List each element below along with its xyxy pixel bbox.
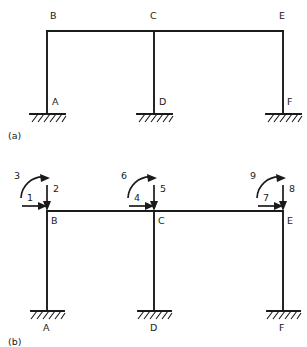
panel-b-support-label-a: A — [43, 322, 50, 333]
dof-group-joint-b: 1 2 3 — [14, 170, 59, 211]
panel-b-joint-label-c: C — [158, 215, 165, 226]
panel-a-joint-label-e: E — [279, 10, 285, 21]
panel-a-support-label-d: D — [159, 96, 166, 107]
dof-7-horizontal-force-arrow — [258, 202, 283, 210]
dof-3-label: 3 — [14, 170, 20, 181]
dof-8-label: 8 — [289, 183, 295, 194]
panel-a-caption: (a) — [8, 130, 21, 141]
dof-5-label: 5 — [160, 183, 166, 194]
panel-b: 1 2 3 4 — [8, 170, 301, 347]
panel-a-joint-label-c: C — [150, 10, 157, 21]
dof-1-horizontal-force-arrow — [22, 202, 47, 210]
dof-7-label: 7 — [263, 192, 269, 203]
dof-group-joint-e: 7 8 9 — [250, 170, 295, 211]
frame-diagram-figure: B C E A D F (a) — [0, 0, 307, 347]
support-a — [30, 114, 66, 122]
dof-9-moment-arrow — [257, 174, 286, 198]
panel-a-support-label-f: F — [287, 96, 292, 107]
dof-6-label: 6 — [121, 170, 127, 181]
panel-a-support-label-a: A — [52, 96, 59, 107]
panel-b-support-label-d: D — [150, 322, 157, 333]
dof-4-label: 4 — [134, 192, 140, 203]
support-d — [137, 114, 173, 122]
dof-4-horizontal-force-arrow — [129, 202, 154, 210]
panel-b-support-d — [138, 311, 172, 319]
dof-2-label: 2 — [53, 183, 59, 194]
panel-b-caption: (b) — [8, 336, 21, 347]
panel-b-joint-label-b: B — [51, 215, 58, 226]
dof-9-label: 9 — [250, 170, 256, 181]
panel-b-joint-label-e: E — [287, 215, 293, 226]
panel-b-support-label-f: F — [279, 322, 284, 333]
dof-group-joint-c: 4 5 6 — [121, 170, 166, 211]
dof-6-moment-arrow — [128, 174, 157, 198]
diagram-canvas: B C E A D F (a) — [0, 0, 307, 347]
panel-b-support-f — [267, 311, 301, 319]
support-f — [266, 114, 302, 122]
panel-a-joint-label-b: B — [50, 10, 57, 21]
dof-3-moment-arrow — [21, 174, 50, 198]
panel-a: B C E A D F (a) — [8, 10, 302, 141]
panel-b-support-a — [31, 311, 65, 319]
dof-1-label: 1 — [27, 192, 33, 203]
